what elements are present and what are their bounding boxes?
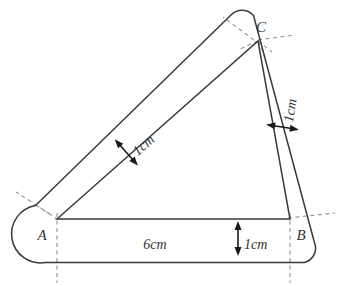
arrow-base-thickness-head-bottom <box>235 247 242 256</box>
arrow-right-arm-head-top <box>266 121 276 129</box>
arrow-right-arm-head-bottom <box>289 125 299 133</box>
label-base-thickness: 1cm <box>244 237 267 252</box>
arrow-base-thickness-head-top <box>235 221 242 230</box>
vertex-labels-group: A B C <box>36 19 305 243</box>
band-outer-outline <box>12 10 316 263</box>
dashed-ray-from-b-right <box>288 213 335 218</box>
construction-lines-group <box>16 17 335 283</box>
dashed-ray-a-corner <box>36 205 57 219</box>
band-outline-group <box>12 10 316 263</box>
vertex-label-b: B <box>296 227 305 243</box>
inner-triangle-group <box>57 41 290 219</box>
dimension-left-arm-thickness: 1cm <box>112 120 160 168</box>
dashed-ray-from-c-upleft <box>223 17 254 40</box>
dashed-hatch-c-1 <box>240 41 258 49</box>
label-right-arm-thickness: 1cm <box>281 98 299 123</box>
geometry-figure: 6cm 1cm 1cm 1cm A B C <box>0 0 352 286</box>
label-left-arm-thickness: 1cm <box>130 132 157 159</box>
inner-triangle <box>57 41 290 219</box>
vertex-label-a: A <box>36 227 47 243</box>
dashed-ray-from-c-right <box>258 35 295 40</box>
label-base-length: 6cm <box>143 237 166 252</box>
vertex-label-c: C <box>256 19 267 35</box>
dimension-base-thickness: 1cm <box>235 221 268 256</box>
geometry-canvas: 6cm 1cm 1cm 1cm A B C <box>0 0 352 286</box>
dimension-base-length: 6cm <box>143 237 166 252</box>
